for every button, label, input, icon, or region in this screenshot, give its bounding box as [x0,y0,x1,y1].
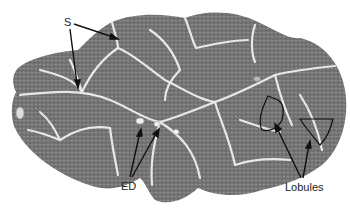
lobules-label: Lobules [285,182,324,193]
septa-label: S [64,17,71,28]
tissue-section [0,0,350,209]
tissue-body [12,12,346,202]
excretory-ducts-label: ED [121,181,136,192]
micrograph-figure: S ED Lobules [0,0,350,209]
